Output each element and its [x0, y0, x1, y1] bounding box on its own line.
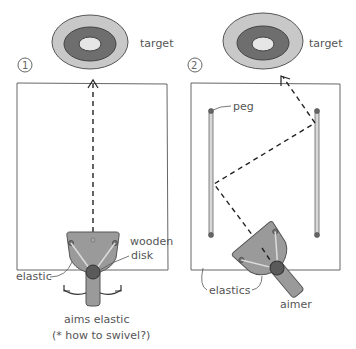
aimer-label: aimer — [280, 298, 312, 311]
elastics-label: elastics — [209, 284, 251, 297]
diagram-canvas: target 1 wooden disk elastic — [0, 0, 356, 349]
aimer-device — [64, 232, 121, 306]
target-icon — [223, 13, 303, 69]
caption-line-2: (* how to swivel?) — [52, 329, 150, 342]
target-label: target — [140, 37, 174, 50]
peg-icon — [209, 233, 214, 238]
caption-line-1: aims elastic — [64, 313, 129, 326]
target-label: target — [309, 37, 343, 50]
peg-icon — [315, 233, 320, 238]
peg-rail-left — [209, 109, 214, 238]
panel-1: target 1 wooden disk elastic — [16, 15, 174, 342]
target-icon — [52, 15, 128, 69]
leader-line — [202, 268, 207, 290]
trajectory-line — [214, 77, 315, 248]
leader-line — [213, 106, 231, 110]
peg-rail-right — [315, 109, 320, 238]
peg-label: peg — [233, 100, 254, 113]
step-number: 2 — [191, 60, 197, 71]
disk-label: disk — [131, 249, 154, 262]
peg-icon — [315, 109, 320, 114]
peg-icon — [209, 109, 214, 114]
leader-line — [252, 276, 262, 290]
step-number: 1 — [22, 60, 28, 71]
wooden-disk — [86, 265, 100, 279]
wooden-label: wooden — [130, 235, 173, 248]
elastic-label: elastic — [16, 270, 52, 283]
panel-2: target 2 peg — [188, 13, 343, 311]
